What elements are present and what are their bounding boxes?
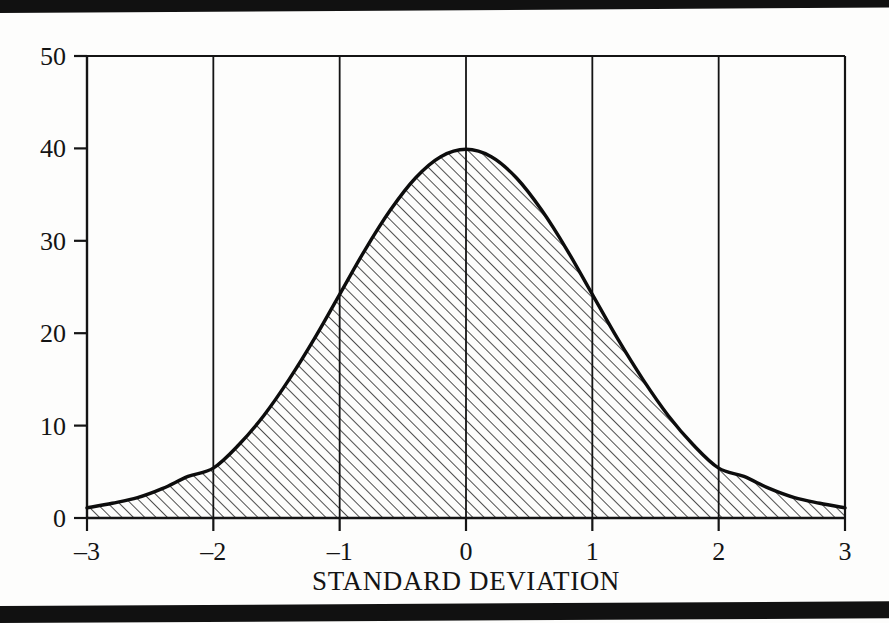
bell-curve-chart: 01020304050 –3–2–10123 STANDARD DEVIATIO… xyxy=(0,0,889,623)
x-axis-title: STANDARD DEVIATION xyxy=(312,566,620,596)
x-axis-ticks xyxy=(87,518,845,531)
y-tick-label-10: 10 xyxy=(40,412,66,441)
curve-fill-area xyxy=(87,149,845,518)
y-tick-label-30: 30 xyxy=(40,227,66,256)
y-axis-tick-labels: 01020304050 xyxy=(40,42,66,533)
y-axis-ticks xyxy=(74,56,87,518)
y-tick-label-0: 0 xyxy=(53,504,66,533)
x-axis-tick-labels: –3–2–10123 xyxy=(73,537,852,566)
x-tick-label--1: –1 xyxy=(326,537,353,566)
x-tick-label--2: –2 xyxy=(199,537,226,566)
x-tick-label-2: 2 xyxy=(712,537,725,566)
x-tick-label-3: 3 xyxy=(839,537,852,566)
y-tick-label-40: 40 xyxy=(40,134,66,163)
x-tick-label-0: 0 xyxy=(460,537,473,566)
y-tick-label-20: 20 xyxy=(40,319,66,348)
figure-root: 01020304050 –3–2–10123 STANDARD DEVIATIO… xyxy=(0,0,889,623)
x-tick-label--3: –3 xyxy=(73,537,100,566)
x-tick-label-1: 1 xyxy=(586,537,599,566)
y-tick-label-50: 50 xyxy=(40,42,66,71)
